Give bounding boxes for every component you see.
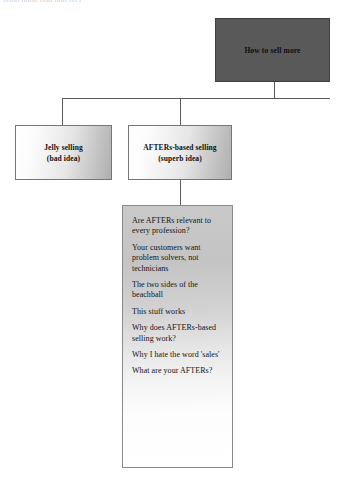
node-root-how-to-sell-more[interactable]: How to sell more: [215, 18, 330, 82]
node-root-label: How to sell more: [244, 46, 300, 55]
list-item[interactable]: The two sides of the beachball: [132, 280, 223, 301]
list-item[interactable]: What are your AFTERs?: [132, 366, 223, 376]
node-afters-based-selling-label-line2: (superb idea): [143, 153, 216, 164]
node-afters-based-selling-label: AFTERs-based selling (superb idea): [143, 142, 216, 164]
diagram-canvas: nnnn nnnn nnn nnn nn nnn nn How to sell …: [0, 0, 348, 480]
connector-horizontal-bus: [62, 98, 330, 99]
list-item[interactable]: This stuff works: [132, 307, 223, 317]
connector-drop-child-2: [180, 98, 181, 125]
connector-drop-child-1: [62, 98, 63, 125]
node-jelly-selling-label-line1: Jelly selling: [44, 143, 83, 152]
node-jelly-selling-label: Jelly selling (bad idea): [44, 142, 83, 164]
clipped-header-text: nnnn nnnn nnn nnn nn nnn nn: [3, 0, 81, 4]
detail-list: Are AFTERs relevant to every profession?…: [132, 216, 223, 377]
detail-list-panel[interactable]: Are AFTERs relevant to every profession?…: [122, 205, 233, 468]
list-item[interactable]: Are AFTERs relevant to every profession?: [132, 216, 223, 237]
connector-drop-detail-list: [180, 180, 181, 205]
list-item[interactable]: Your customers want problem solvers, not…: [132, 243, 223, 274]
list-item[interactable]: Why does AFTERs-based selling work?: [132, 323, 223, 344]
node-jelly-selling-label-line2: (bad idea): [44, 153, 83, 164]
node-jelly-selling[interactable]: Jelly selling (bad idea): [15, 125, 112, 180]
list-item[interactable]: Why I hate the word 'sales': [132, 350, 223, 360]
node-afters-based-selling-label-line1: AFTERs-based selling: [143, 143, 216, 152]
connector-root-stem: [274, 82, 275, 99]
node-afters-based-selling[interactable]: AFTERs-based selling (superb idea): [128, 125, 232, 180]
